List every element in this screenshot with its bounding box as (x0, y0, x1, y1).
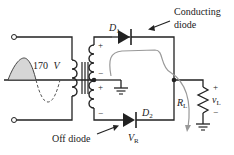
off-diode-label: Off diode (52, 133, 91, 144)
secondary-coil (89, 45, 94, 108)
upper-plus: + (98, 40, 103, 50)
rl-label: RL (176, 97, 187, 110)
source-voltage-label: 170 V (33, 60, 62, 71)
upper-minus: − (98, 68, 103, 78)
conducting-label-line2: diode (174, 19, 197, 30)
vl-minus: − (213, 107, 218, 117)
ground-icon-center (114, 88, 128, 94)
sine-positive-half (8, 58, 36, 80)
rectifier-circuit-diagram: 170 V D1 D2 VR RL + vL − Conducting diod… (0, 0, 234, 155)
ground-icon-load (196, 124, 210, 130)
conducting-arrow-icon (148, 25, 155, 31)
primary-wire-top (17, 37, 73, 60)
conducting-label-line1: Conducting (174, 6, 221, 17)
d2-label: D2 (141, 107, 153, 120)
lower-minus: − (98, 108, 103, 118)
input-terminal-bottom (12, 118, 17, 123)
output-wire (131, 37, 174, 120)
vl-plus: + (213, 82, 218, 92)
vr-label: VR (128, 132, 139, 145)
input-terminal-top (12, 35, 17, 40)
d1-label: D1 (108, 22, 120, 35)
sine-negative-half (36, 80, 60, 102)
off-diode-arrow-icon (113, 125, 119, 131)
vl-label: vL (212, 94, 221, 107)
lower-plus: + (98, 82, 103, 92)
resistor-rl-icon (198, 87, 208, 113)
primary-coil (72, 60, 77, 96)
diode-d1-icon (118, 29, 131, 45)
diode-d2-icon (123, 112, 136, 128)
